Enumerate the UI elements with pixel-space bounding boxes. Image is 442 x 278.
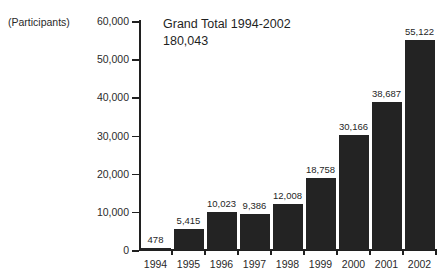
y-axis-tick-mark [132, 97, 139, 99]
y-axis-tick-label: 10,000 [97, 206, 129, 218]
x-axis-tick-label: 2001 [375, 258, 398, 270]
y-axis-tick-mark [132, 174, 139, 176]
y-axis-tick-label: 30,000 [97, 130, 129, 142]
x-axis-tick-mark [270, 249, 272, 255]
bar[interactable] [141, 248, 171, 250]
bar[interactable] [405, 40, 435, 250]
y-axis-tick-mark [132, 250, 139, 252]
x-axis-tick-label: 2000 [342, 258, 365, 270]
bar[interactable] [339, 135, 369, 250]
y-axis-tick-label: 60,000 [97, 15, 129, 27]
y-axis-tick-mark [132, 136, 139, 138]
y-axis-tick-label: 40,000 [97, 91, 129, 103]
bar-value-label: 38,687 [372, 88, 401, 99]
bar-chart: (Participants) Grand Total 1994-2002 180… [0, 0, 442, 278]
y-axis-tick-mark [132, 212, 139, 214]
bar-value-label: 5,415 [177, 215, 201, 226]
bar[interactable] [372, 102, 402, 250]
bar[interactable] [240, 214, 270, 250]
plot-area: 010,00020,00030,00040,00050,00060,000478… [139, 21, 436, 250]
x-axis-tick-mark [204, 249, 206, 255]
bar[interactable] [273, 204, 303, 250]
bar-value-label: 18,758 [306, 164, 335, 175]
x-axis-tick-mark [435, 249, 437, 255]
y-axis-tick-label: 0 [123, 244, 129, 256]
x-axis-tick-label: 1998 [276, 258, 299, 270]
bar[interactable] [174, 229, 204, 250]
x-axis-tick-label: 1996 [210, 258, 233, 270]
x-axis-tick-label: 2002 [408, 258, 431, 270]
x-axis-tick-label: 1994 [144, 258, 167, 270]
x-axis-tick-label: 1999 [309, 258, 332, 270]
x-axis-tick-mark [402, 249, 404, 255]
x-axis-tick-mark [369, 249, 371, 255]
x-axis-tick-label: 1995 [177, 258, 200, 270]
bar-value-label: 30,166 [339, 121, 368, 132]
x-axis-tick-mark [237, 249, 239, 255]
bar[interactable] [207, 212, 237, 250]
x-axis-tick-mark [171, 249, 173, 255]
y-axis-tick-mark [132, 59, 139, 61]
y-axis-tick-mark [132, 21, 139, 23]
bar[interactable] [306, 178, 336, 250]
bar-value-label: 478 [148, 234, 164, 245]
x-axis-tick-mark [303, 249, 305, 255]
bar-value-label: 55,122 [405, 26, 434, 37]
bar-value-label: 12,008 [273, 190, 302, 201]
y-axis-unit-caption: (Participants) [8, 16, 70, 28]
x-axis-tick-mark [336, 249, 338, 255]
y-axis-tick-label: 20,000 [97, 168, 129, 180]
bar-value-label: 9,386 [243, 200, 267, 211]
y-axis-tick-label: 50,000 [97, 53, 129, 65]
x-axis-tick-label: 1997 [243, 258, 266, 270]
bar-value-label: 10,023 [207, 198, 236, 209]
